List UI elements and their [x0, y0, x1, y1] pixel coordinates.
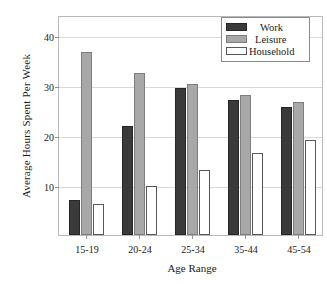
x-axis-title: Age Range	[58, 262, 326, 274]
bar-work-20-24[interactable]	[122, 126, 133, 236]
bar-household-15-19[interactable]	[93, 204, 104, 235]
bar-group-15-19: 15-19	[69, 17, 104, 235]
x-tick-mark-20-24	[139, 235, 140, 239]
bar-household-35-44[interactable]	[252, 153, 263, 235]
x-tick-label-35-44: 35-44	[216, 244, 276, 255]
y-tick-mark-20	[55, 137, 59, 138]
legend-swatch-household-icon	[226, 47, 247, 55]
legend-label-household: Household	[249, 46, 295, 57]
y-tick-label-30: 30	[44, 82, 54, 93]
x-tick-label-25-34: 25-34	[163, 244, 223, 255]
bar-work-25-34[interactable]	[175, 88, 186, 235]
legend-item-work: Work	[226, 21, 305, 33]
x-tick-label-20-24: 20-24	[110, 244, 170, 255]
y-tick-label-20: 20	[44, 132, 54, 143]
bar-group-25-34: 25-34	[175, 17, 210, 235]
bar-household-45-54[interactable]	[305, 140, 316, 235]
bar-work-35-44[interactable]	[228, 100, 239, 235]
x-tick-mark-15-19	[86, 235, 87, 239]
y-tick-mark-10	[55, 187, 59, 188]
bar-leisure-20-24[interactable]	[134, 73, 145, 235]
y-axis-title: Average Hours Spent Per Week	[20, 26, 32, 226]
bar-chart: Average Hours Spent Per Week 10203040 15…	[0, 0, 327, 284]
y-tick-mark-30	[55, 87, 59, 88]
bar-group-20-24: 20-24	[122, 17, 157, 235]
bar-household-20-24[interactable]	[146, 186, 157, 235]
legend-label-work: Work	[260, 22, 283, 33]
bar-work-45-54[interactable]	[281, 107, 292, 236]
bar-leisure-25-34[interactable]	[187, 84, 198, 235]
bar-work-15-19[interactable]	[69, 200, 80, 235]
x-tick-mark-25-34	[192, 235, 193, 239]
x-tick-label-15-19: 15-19	[57, 244, 117, 255]
legend-label-leisure: Leisure	[255, 34, 287, 45]
bar-leisure-15-19[interactable]	[81, 52, 92, 236]
legend-swatch-work-icon	[226, 23, 247, 31]
y-tick-label-10: 10	[44, 182, 54, 193]
legend-item-household: Household	[226, 45, 305, 57]
bar-leisure-35-44[interactable]	[240, 95, 251, 235]
x-tick-mark-45-54	[298, 235, 299, 239]
y-tick-label-40: 40	[44, 32, 54, 43]
x-tick-label-45-54: 45-54	[269, 244, 327, 255]
legend: Work Leisure Household	[221, 17, 310, 62]
bar-leisure-45-54[interactable]	[293, 102, 304, 236]
legend-swatch-leisure-icon	[226, 35, 247, 43]
x-tick-mark-35-44	[245, 235, 246, 239]
bar-household-25-34[interactable]	[199, 170, 210, 235]
y-tick-mark-40	[55, 37, 59, 38]
legend-item-leisure: Leisure	[226, 33, 305, 45]
